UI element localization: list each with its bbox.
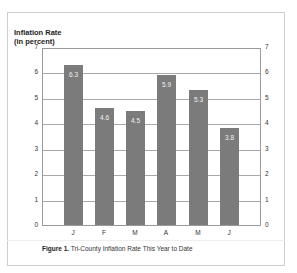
x-tick-label: M xyxy=(188,229,208,236)
bar: 4.6 xyxy=(95,108,114,225)
bar-value-label: 4.6 xyxy=(95,114,114,121)
y-tick-label-right: 3 xyxy=(265,145,275,152)
bar-value-label: 5.3 xyxy=(189,96,208,103)
bar: 5.3 xyxy=(189,90,208,225)
plot-area: 6.34.64.55.95.33.8 xyxy=(42,48,261,226)
y-tick-label-left: 0 xyxy=(30,221,38,228)
bar: 5.9 xyxy=(157,75,176,225)
y-tick-label-right: 1 xyxy=(265,196,275,203)
y-tick-label-right: 4 xyxy=(265,119,275,126)
y-tick-label-left: 4 xyxy=(30,119,38,126)
y-tick-label-right: 6 xyxy=(265,68,275,75)
bar-value-label: 5.9 xyxy=(157,81,176,88)
bar: 4.5 xyxy=(126,111,145,225)
caption-divider xyxy=(7,240,285,241)
caption-text: Tri-County Inflation Rate This Year to D… xyxy=(69,245,192,252)
y-tick-label-left: 1 xyxy=(30,196,38,203)
x-tick-label: F xyxy=(94,229,114,236)
y-tick-label-left: 6 xyxy=(30,68,38,75)
figure-caption: Figure 1. Tri-County Inflation Rate This… xyxy=(42,245,193,252)
bar-value-label: 4.5 xyxy=(126,117,145,124)
y-tick-label-left: 7 xyxy=(30,43,38,50)
x-tick-label: M xyxy=(125,229,145,236)
y-axis-title-line1: Inflation Rate xyxy=(14,28,62,37)
bar: 3.8 xyxy=(220,128,239,225)
y-tick-label-left: 2 xyxy=(30,170,38,177)
caption-label: Figure 1. xyxy=(42,245,69,252)
y-tick-label-left: 5 xyxy=(30,94,38,101)
y-tick-label-right: 2 xyxy=(265,170,275,177)
x-tick-label: J xyxy=(219,229,239,236)
x-tick-label: J xyxy=(63,229,83,236)
bar-value-label: 3.8 xyxy=(220,134,239,141)
y-tick-label-right: 5 xyxy=(265,94,275,101)
y-tick-label-right: 0 xyxy=(265,221,275,228)
bar-value-label: 6.3 xyxy=(64,71,83,78)
y-tick-label-left: 3 xyxy=(30,145,38,152)
y-tick-label-right: 7 xyxy=(265,43,275,50)
x-tick-label: A xyxy=(156,229,176,236)
bar: 6.3 xyxy=(64,65,83,225)
